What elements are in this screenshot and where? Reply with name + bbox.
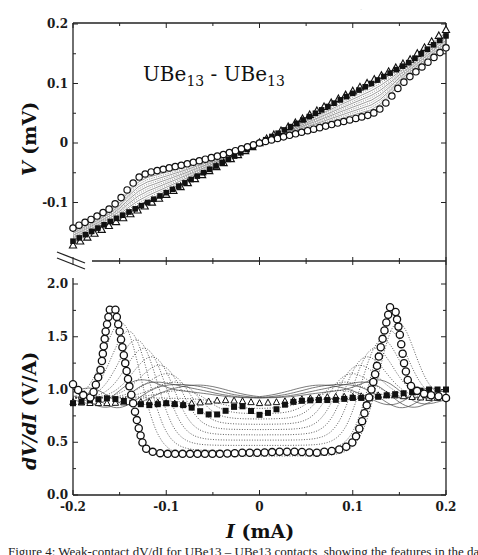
circle-marker [399,350,406,357]
circle-marker [437,49,443,55]
circle-marker [425,59,431,65]
circle-marker [377,106,383,112]
circle-marker [291,448,298,455]
circle-marker [97,366,104,373]
circle-marker [377,344,384,351]
circle-marker [80,391,87,398]
square-marker [401,390,407,396]
square-marker [387,70,393,76]
square-marker [400,63,406,69]
circle-marker [256,140,262,146]
square-marker [412,55,418,61]
square-marker [333,397,339,403]
square-marker [319,107,325,113]
square-marker [201,170,207,176]
square-marker [151,196,157,202]
circle-marker [398,341,405,348]
circle-marker [164,450,171,457]
x-tick-label: -0.1 [153,500,179,514]
circle-marker [365,394,372,401]
square-marker [170,187,176,193]
square-marker [362,84,368,90]
square-marker [299,398,305,404]
circle-marker [268,137,274,143]
circle-marker [131,408,138,415]
circle-marker [254,449,261,456]
square-marker [114,216,120,222]
circle-marker [202,156,208,162]
top-y-tick-label: 0.1 [47,77,68,91]
square-marker [112,396,118,402]
circle-marker [268,448,275,455]
circle-marker [356,425,363,432]
x-tick-label: 0.1 [342,500,363,514]
triangle-marker [435,32,442,39]
triangle-marker [265,399,271,405]
square-marker [316,397,322,403]
square-marker [108,219,114,225]
bottom-y-tick-label: 2.0 [47,277,68,291]
circle-marker [126,383,133,390]
circle-marker [321,448,328,455]
square-marker [282,127,288,133]
bottom-series-markers [69,304,449,458]
circle-marker [435,393,442,400]
square-marker [139,203,145,209]
circle-marker [133,416,140,423]
circle-marker [358,418,365,425]
circle-marker [119,344,126,351]
square-marker [392,391,398,397]
circle-marker [304,128,310,134]
x-tick-label: -0.2 [60,500,86,514]
circle-marker [190,159,196,165]
square-marker [206,411,212,417]
circle-marker [322,123,328,129]
circle-marker [413,69,419,75]
square-marker [189,405,195,411]
circle-marker [392,308,399,315]
circle-marker [224,450,231,457]
x-axis-title: I (mA) [225,520,294,542]
circle-marker [166,165,172,171]
circle-marker [261,449,268,456]
circle-marker [276,448,283,455]
square-marker [95,225,101,231]
circle-marker [149,448,156,455]
square-marker [70,238,76,244]
square-marker [435,387,441,393]
circle-marker [292,131,298,137]
circle-marker [100,343,107,350]
circle-marker [123,367,130,374]
circle-marker [103,321,110,328]
square-marker [121,398,127,404]
square-marker [425,46,431,52]
triangle-marker [239,398,245,404]
circle-marker [368,386,375,393]
circle-marker [105,313,112,320]
square-marker [76,235,82,241]
square-marker [213,163,219,169]
circle-marker [383,100,389,106]
circle-marker [316,124,322,130]
axis-break [57,252,446,269]
circle-marker [280,134,286,140]
square-marker [294,121,300,127]
bottom-y-tick-label: 0.5 [47,435,68,449]
circle-marker [95,374,102,381]
circle-marker [379,335,386,342]
circle-marker [82,219,88,225]
circle-marker [186,450,193,457]
circle-marker [341,118,347,124]
circle-marker [274,135,280,141]
square-marker [101,222,107,228]
triangle-marker [273,399,279,405]
square-marker [356,87,362,93]
circle-marker [402,368,409,375]
square-marker [369,81,375,87]
circle-marker [381,327,388,334]
square-marker [290,399,296,405]
square-marker [89,229,95,235]
circle-marker [361,410,368,417]
circle-marker [184,161,190,167]
